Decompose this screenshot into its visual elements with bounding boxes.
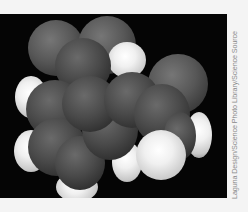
photo-credit: Laguna Design/Science Photo Library/Scie… bbox=[230, 19, 239, 199]
molecule-photo bbox=[0, 14, 227, 198]
hydrogen-atom-front bbox=[136, 130, 186, 180]
